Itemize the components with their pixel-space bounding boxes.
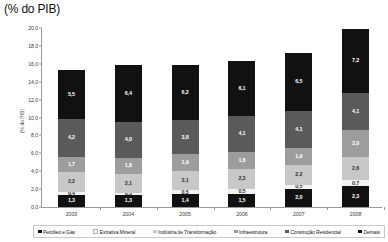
- bar-segment-value: 2,3: [352, 194, 359, 199]
- bar-segment-value: 2,0: [295, 195, 302, 200]
- legend-item[interactable]: Petróleo e Gás: [38, 229, 75, 235]
- bar-segment[interactable]: 4,1: [228, 116, 255, 153]
- bar-segment-value: 1,7: [68, 162, 75, 167]
- bar-segment[interactable]: 4,2: [58, 119, 85, 157]
- bar-segment[interactable]: 6,1: [228, 61, 255, 116]
- bar-segment-value: 4,2: [68, 135, 75, 140]
- bar-segment-value: 0,5: [182, 190, 189, 195]
- bar-segment[interactable]: 1,3: [115, 195, 142, 207]
- bar-segment[interactable]: 0,5: [172, 190, 199, 194]
- bar-segment[interactable]: 1,8: [228, 152, 255, 168]
- legend-swatch-icon: [93, 229, 99, 235]
- y-axis-label: (% do PIB): [19, 109, 25, 133]
- bar-segment-value: 4,1: [295, 127, 302, 132]
- bar-segment[interactable]: 0,7: [342, 180, 369, 186]
- bar-segment[interactable]: 2,0: [285, 189, 312, 207]
- bar-segment[interactable]: 3,8: [172, 120, 199, 154]
- bar-segment[interactable]: 1,3: [58, 195, 85, 207]
- bar-segment-value: 2,1: [125, 181, 132, 186]
- legend-item[interactable]: Construção Residencial: [285, 229, 341, 235]
- bar-segment[interactable]: 1,9: [285, 148, 312, 165]
- bar-segment-value: 2,3: [238, 176, 245, 181]
- legend-swatch-icon: [285, 230, 289, 234]
- bar-segment-value: 6,2: [182, 90, 189, 95]
- x-tick-label: 2006: [236, 211, 248, 217]
- bar-segment-value: 2,1: [182, 178, 189, 183]
- bar-segment-value: 2,2: [68, 179, 75, 184]
- bar-segment-value: 0,7: [352, 181, 359, 186]
- plot-area: 0,02,04,06,08,010,012,014,016,018,020,0 …: [41, 28, 382, 208]
- legend-item[interactable]: Infraestrutura: [234, 229, 267, 235]
- bar-segment-value: 1,9: [295, 154, 302, 159]
- bar-segment-value: 1,5: [238, 198, 245, 203]
- x-tick-mark: [157, 207, 158, 210]
- x-tick-mark: [270, 207, 271, 210]
- bar-segment[interactable]: 1,7: [58, 157, 85, 172]
- bar-segment-value: 6,1: [238, 86, 245, 91]
- bar-segment[interactable]: 3,0: [342, 130, 369, 157]
- bar-segment-value: 0,5: [295, 184, 302, 189]
- bar-column[interactable]: 1,50,52,31,84,16,1: [228, 61, 255, 207]
- bar-segment-value: 6,5: [295, 79, 302, 84]
- bars-layer: 1,30,42,21,74,25,51,30,32,11,84,06,41,40…: [41, 28, 382, 208]
- bar-segment-value: 5,5: [68, 92, 75, 97]
- bar-segment[interactable]: 1,8: [115, 158, 142, 174]
- legend-label: Indústria de Transformação: [158, 229, 216, 235]
- bar-segment-value: 4,1: [352, 109, 359, 114]
- bar-segment[interactable]: 2,6: [342, 157, 369, 180]
- legend-item[interactable]: Indústria de Transformação: [153, 229, 216, 235]
- bar-segment-value: 3,0: [352, 141, 359, 146]
- legend-label: Construção Residencial: [290, 229, 341, 235]
- chart-title: (% do PIB): [4, 2, 60, 16]
- stacked-bar-chart: (% do PIB) (% do PIB) 0,02,04,06,08,010,…: [0, 0, 388, 242]
- bar-segment[interactable]: 4,1: [342, 93, 369, 130]
- bar-segment[interactable]: 1,9: [172, 154, 199, 171]
- x-tick-label: 2005: [179, 211, 191, 217]
- bar-column[interactable]: 2,00,52,21,94,16,5: [285, 53, 312, 207]
- bar-segment-value: 2,6: [352, 166, 359, 171]
- bar-segment[interactable]: 6,2: [172, 65, 199, 120]
- bar-segment-value: 1,3: [68, 198, 75, 203]
- bar-segment[interactable]: 7,2: [342, 29, 369, 93]
- x-tick-label: 2008: [350, 211, 362, 217]
- legend-swatch-icon: [358, 230, 362, 234]
- bar-segment[interactable]: 2,2: [58, 172, 85, 192]
- bar-segment[interactable]: 0,5: [228, 189, 255, 193]
- legend-swatch-icon: [234, 230, 238, 234]
- bar-segment[interactable]: 1,5: [228, 194, 255, 207]
- bar-segment-value: 1,8: [238, 158, 245, 163]
- bar-segment[interactable]: 5,5: [58, 70, 85, 119]
- x-tick-mark: [100, 207, 101, 210]
- bar-segment[interactable]: 4,1: [285, 111, 312, 148]
- bar-column[interactable]: 1,30,32,11,84,06,4: [115, 65, 142, 207]
- bar-segment[interactable]: 4,0: [115, 122, 142, 158]
- legend-item[interactable]: Demais: [358, 229, 379, 235]
- legend-label: Extrativa Mineral: [100, 229, 135, 235]
- bar-segment[interactable]: 2,1: [172, 171, 199, 190]
- x-tick-mark: [384, 207, 385, 210]
- x-tick-label: 2007: [293, 211, 305, 217]
- bar-segment[interactable]: 6,4: [115, 65, 142, 122]
- bar-segment-value: 1,3: [125, 198, 132, 203]
- bar-column[interactable]: 2,30,72,63,04,17,2: [342, 29, 369, 207]
- bar-column[interactable]: 1,40,52,11,93,86,2: [172, 65, 199, 207]
- bar-segment-value: 4,1: [238, 131, 245, 136]
- x-tick-label: 2003: [66, 211, 78, 217]
- bar-segment[interactable]: 0,5: [285, 185, 312, 189]
- bar-segment[interactable]: 2,1: [115, 174, 142, 193]
- bar-segment-value: 0,5: [238, 189, 245, 194]
- bar-segment[interactable]: 2,3: [342, 186, 369, 207]
- bar-segment[interactable]: 0,4: [58, 192, 85, 196]
- legend-item[interactable]: Extrativa Mineral: [93, 229, 135, 235]
- chart-legend: Petróleo e GásExtrativa MineralIndústria…: [33, 225, 385, 238]
- legend-swatch-icon: [153, 230, 157, 234]
- bar-segment[interactable]: 0,3: [115, 193, 142, 196]
- bar-segment[interactable]: 2,3: [228, 169, 255, 190]
- bar-segment[interactable]: 2,2: [285, 165, 312, 185]
- legend-label: Demais: [364, 229, 380, 235]
- bar-segment[interactable]: 6,5: [285, 53, 312, 111]
- bar-column[interactable]: 1,30,42,21,74,25,5: [58, 70, 85, 207]
- bar-segment[interactable]: 1,4: [172, 194, 199, 207]
- bar-segment-value: 6,4: [125, 91, 132, 96]
- bar-segment-value: 3,8: [182, 135, 189, 140]
